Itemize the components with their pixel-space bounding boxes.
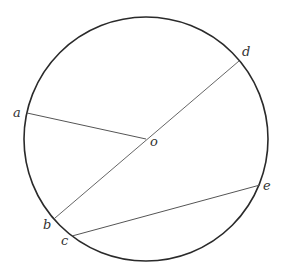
diameter-bd (55, 61, 239, 218)
label-a: a (13, 105, 21, 120)
radius-ao (27, 113, 146, 139)
label-o: o (150, 134, 158, 149)
circle-diagram: a o d e b c (0, 0, 283, 279)
label-b: b (43, 217, 51, 232)
diagram-svg: a o d e b c (0, 0, 283, 279)
label-c: c (61, 233, 69, 248)
label-d: d (242, 44, 250, 59)
chord-ce (72, 185, 260, 236)
label-e: e (263, 178, 271, 193)
